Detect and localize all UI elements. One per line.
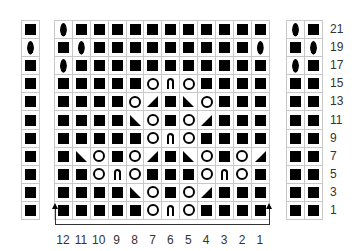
chart-cell	[162, 166, 180, 184]
chart-cell	[127, 75, 145, 93]
knit-square-icon	[130, 133, 141, 144]
knit-square-icon	[290, 151, 301, 162]
chart-cell	[73, 184, 91, 202]
chart-cell	[198, 148, 216, 166]
knit-square-icon	[183, 42, 194, 53]
chart-cell	[22, 202, 40, 220]
yarn-over-circle-icon	[183, 132, 195, 144]
knit-square-icon	[308, 205, 319, 216]
row-label: 1	[330, 203, 337, 217]
yarn-over-circle-icon	[201, 96, 213, 108]
knit-square-icon	[201, 24, 212, 35]
column-label: 12	[54, 233, 72, 247]
chart-cell	[91, 184, 109, 202]
knit-square-icon	[58, 42, 69, 53]
yarn-over-circle-icon	[201, 150, 213, 162]
knit-square-icon	[308, 96, 319, 107]
chart-cell	[252, 75, 270, 93]
chart-cell	[305, 93, 323, 111]
knit-square-icon	[58, 205, 69, 216]
right-decrease-triangle-icon	[147, 151, 158, 162]
knit-square-icon	[237, 42, 248, 53]
chart-cell	[144, 75, 162, 93]
chart-cell	[216, 21, 234, 39]
chart-cell	[91, 39, 109, 57]
chart-cell	[305, 21, 323, 39]
chart-cell	[109, 111, 127, 129]
chart-cell	[198, 184, 216, 202]
knit-square-icon	[290, 205, 301, 216]
chart-cell	[55, 57, 73, 75]
chart-cell	[73, 39, 91, 57]
knit-square-icon	[308, 24, 319, 35]
chart-cell	[73, 148, 91, 166]
yarn-over-circle-icon	[183, 78, 195, 90]
chart-cell	[216, 148, 234, 166]
knit-square-icon	[112, 42, 123, 53]
knit-square-icon	[255, 133, 266, 144]
chart-cell	[305, 130, 323, 148]
knit-square-icon	[308, 60, 319, 71]
knit-square-icon	[112, 78, 123, 89]
chart-cell	[198, 130, 216, 148]
chart-cell	[73, 93, 91, 111]
chart-cell	[109, 130, 127, 148]
knit-square-icon	[76, 133, 87, 144]
chart-cell	[198, 202, 216, 220]
chart-cell	[180, 184, 198, 202]
left-decrease-triangle-icon	[130, 115, 141, 126]
chart-cell	[287, 111, 305, 129]
knit-square-icon	[201, 133, 212, 144]
knit-square-icon	[25, 169, 36, 180]
yarn-over-circle-icon	[201, 168, 213, 180]
row-label: 19	[330, 40, 343, 54]
chart-cell	[234, 202, 252, 220]
chart-cell	[287, 202, 305, 220]
knit-square-icon	[237, 115, 248, 126]
yarn-over-circle-icon	[236, 150, 248, 162]
knit-square-icon	[219, 78, 230, 89]
row-label: 3	[330, 185, 337, 199]
knit-square-icon	[76, 187, 87, 198]
chart-cell	[162, 39, 180, 57]
yarn-over-circle-icon	[183, 114, 195, 126]
chart-cell	[22, 39, 40, 57]
chart-cell	[162, 57, 180, 75]
chart-cell	[234, 130, 252, 148]
knit-square-icon	[308, 187, 319, 198]
knit-square-icon	[290, 78, 301, 89]
knit-square-icon	[290, 187, 301, 198]
column-label: 6	[161, 233, 179, 247]
chart-cell	[216, 184, 234, 202]
chart-cell	[305, 111, 323, 129]
chart-cell	[198, 75, 216, 93]
chart-cell	[252, 130, 270, 148]
chart-cell	[162, 184, 180, 202]
knit-square-icon	[237, 96, 248, 107]
chart-cell	[198, 21, 216, 39]
leaf-bobble-icon	[60, 23, 67, 37]
knit-square-icon	[112, 151, 123, 162]
chart-cell	[252, 93, 270, 111]
leaf-bobble-icon	[257, 41, 264, 55]
knit-square-icon	[183, 60, 194, 71]
right-edge-chart	[286, 20, 323, 220]
chart-cell	[144, 57, 162, 75]
knit-square-icon	[165, 169, 176, 180]
arrow-up-icon	[52, 203, 58, 209]
knit-square-icon	[219, 133, 230, 144]
column-label: 2	[233, 233, 251, 247]
chart-cell	[22, 166, 40, 184]
knit-square-icon	[147, 24, 158, 35]
chart-cell	[287, 148, 305, 166]
chart-cell	[144, 184, 162, 202]
chart-cell	[73, 166, 91, 184]
row-label: 11	[330, 113, 342, 127]
chart-cell	[162, 130, 180, 148]
knit-square-icon	[25, 24, 36, 35]
knit-square-icon	[219, 24, 230, 35]
knit-square-icon	[219, 115, 230, 126]
chart-cell	[22, 21, 40, 39]
chart-cell	[287, 184, 305, 202]
leaf-bobble-icon	[292, 23, 299, 37]
